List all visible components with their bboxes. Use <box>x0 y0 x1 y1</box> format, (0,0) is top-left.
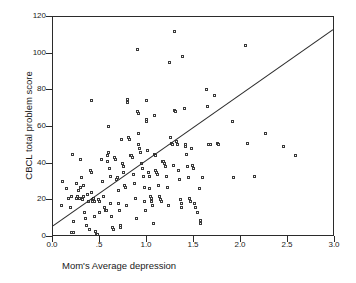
y-tick-mark <box>46 163 52 164</box>
y-tick-mark <box>46 199 52 200</box>
x-tick-label: 2.0 <box>225 241 255 249</box>
y-tick-mark <box>46 126 52 127</box>
x-axis-title: Mom's Average depression <box>62 260 176 271</box>
y-tick-mark <box>46 16 52 17</box>
scatter-plot-figure: 020406080100120 0.0.51.01.52.02.53.0 Mom… <box>0 0 356 283</box>
y-tick-label: 80 <box>37 85 46 93</box>
y-tick-label: 40 <box>37 159 46 167</box>
x-tick-label: 1.5 <box>178 241 208 249</box>
regression-line <box>53 17 333 235</box>
x-tick-label: 0.0 <box>37 241 67 249</box>
y-tick-label: 120 <box>33 12 46 20</box>
x-tick-label: .5 <box>84 241 114 249</box>
y-tick-label: 20 <box>37 195 46 203</box>
y-axis-title: CBCL total problem score <box>23 46 34 206</box>
y-tick-label: 0 <box>42 232 46 240</box>
y-tick-label: 60 <box>37 122 46 130</box>
y-tick-label: 100 <box>33 49 46 57</box>
plot-area <box>52 16 334 236</box>
y-tick-mark <box>46 53 52 54</box>
x-tick-label: 3.0 <box>319 241 349 249</box>
y-tick-mark <box>46 89 52 90</box>
x-tick-label: 1.0 <box>131 241 161 249</box>
x-tick-label: 2.5 <box>272 241 302 249</box>
